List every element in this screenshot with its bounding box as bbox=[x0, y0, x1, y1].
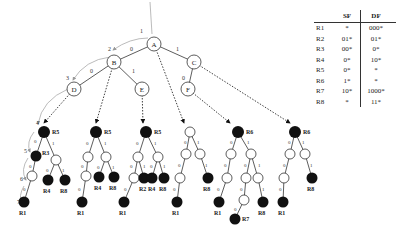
svg-text:1: 1 bbox=[262, 187, 265, 192]
svg-text:A: A bbox=[151, 41, 156, 49]
svg-text:0: 0 bbox=[34, 139, 37, 144]
svg-text:0: 0 bbox=[130, 164, 133, 169]
table-row: R8*11* bbox=[314, 97, 396, 108]
edge-label: 1 bbox=[132, 68, 135, 74]
table-row: R201*01* bbox=[314, 34, 396, 45]
svg-text:R5: R5 bbox=[52, 129, 59, 135]
sf-header: SF bbox=[334, 10, 361, 22]
svg-text:R8: R8 bbox=[60, 188, 67, 194]
svg-text:1: 1 bbox=[310, 163, 313, 168]
table-row: R40*10* bbox=[314, 55, 396, 66]
svg-text:0: 0 bbox=[234, 207, 237, 212]
svg-text:0: 0 bbox=[23, 187, 26, 192]
rule-table: SF DF R1*000* R201*01* R300*0* R40*10* R… bbox=[314, 10, 396, 107]
svg-text:R4: R4 bbox=[148, 186, 155, 192]
svg-text:F: F bbox=[186, 86, 190, 94]
svg-text:0: 0 bbox=[279, 187, 282, 192]
svg-text:1: 1 bbox=[112, 165, 115, 170]
svg-text:0: 0 bbox=[81, 164, 84, 169]
svg-text:R8: R8 bbox=[159, 186, 166, 192]
svg-text:1: 1 bbox=[247, 140, 250, 145]
table-row: R50** bbox=[314, 65, 396, 76]
svg-text:1: 1 bbox=[62, 168, 65, 173]
df-header: DF bbox=[361, 12, 391, 20]
svg-text:R1: R1 bbox=[119, 210, 126, 216]
step-label-4: 4 bbox=[36, 120, 39, 126]
svg-text:1: 1 bbox=[197, 140, 200, 145]
svg-text:R1: R1 bbox=[278, 210, 285, 216]
svg-text:R4: R4 bbox=[43, 188, 50, 194]
svg-text:0: 0 bbox=[97, 165, 100, 170]
svg-text:E: E bbox=[140, 86, 144, 94]
svg-text:1: 1 bbox=[302, 140, 305, 145]
svg-text:0: 0 bbox=[184, 140, 187, 145]
svg-text:0: 0 bbox=[136, 141, 139, 146]
svg-text:R8: R8 bbox=[203, 186, 210, 192]
table-row: R1*000* bbox=[314, 23, 396, 34]
svg-text:1: 1 bbox=[104, 141, 107, 146]
edge-label: 0 bbox=[130, 46, 133, 52]
step-label-5: 5 bbox=[24, 148, 27, 154]
svg-text:0: 0 bbox=[288, 140, 291, 145]
svg-text:0: 0 bbox=[240, 187, 243, 192]
step-label-2: 2 bbox=[108, 46, 111, 52]
svg-text:0: 0 bbox=[244, 163, 247, 168]
svg-text:0: 0 bbox=[29, 164, 32, 169]
svg-text:R1: R1 bbox=[172, 210, 179, 216]
svg-text:1: 1 bbox=[52, 141, 55, 146]
svg-text:0: 0 bbox=[78, 187, 81, 192]
edge-label: 0 bbox=[90, 68, 93, 74]
svg-text:D: D bbox=[71, 86, 76, 94]
rule-node-r5 bbox=[38, 126, 50, 138]
svg-text:R8: R8 bbox=[109, 185, 116, 191]
svg-text:B: B bbox=[112, 59, 117, 67]
svg-text:C: C bbox=[192, 59, 197, 67]
svg-text:1: 1 bbox=[154, 141, 157, 146]
svg-text:R8: R8 bbox=[258, 210, 265, 216]
svg-text:0: 0 bbox=[173, 187, 176, 192]
svg-text:R3: R3 bbox=[42, 150, 49, 156]
svg-text:R2: R2 bbox=[139, 186, 146, 192]
edge-label: 1 bbox=[176, 46, 179, 52]
svg-text:0: 0 bbox=[224, 163, 227, 168]
svg-text:0: 0 bbox=[150, 164, 153, 169]
svg-text:R6: R6 bbox=[303, 129, 310, 135]
svg-text:0: 0 bbox=[178, 163, 181, 168]
step-label-6: 6 bbox=[20, 176, 23, 182]
svg-text:0: 0 bbox=[217, 187, 220, 192]
svg-text:R6: R6 bbox=[246, 129, 253, 135]
rule-node-r3 bbox=[31, 151, 42, 162]
svg-text:R1: R1 bbox=[214, 210, 221, 216]
svg-text:1: 1 bbox=[258, 163, 261, 168]
svg-text:R1: R1 bbox=[77, 210, 84, 216]
table-row: R300*0* bbox=[314, 44, 396, 55]
step-label-3: 3 bbox=[66, 75, 69, 81]
svg-text:R7: R7 bbox=[242, 216, 249, 222]
step-label-1: 1 bbox=[140, 28, 143, 34]
svg-text:1: 1 bbox=[205, 163, 208, 168]
svg-text:1: 1 bbox=[163, 164, 166, 169]
table-row: R710*1000* bbox=[314, 86, 396, 97]
svg-text:R4: R4 bbox=[94, 185, 101, 191]
table-header: SF DF bbox=[314, 10, 396, 23]
table-row: R61** bbox=[314, 76, 396, 87]
svg-text:0: 0 bbox=[283, 163, 286, 168]
svg-text:R8: R8 bbox=[307, 186, 314, 192]
svg-text:0: 0 bbox=[86, 141, 89, 146]
svg-text:0: 0 bbox=[230, 140, 233, 145]
svg-text:R5: R5 bbox=[154, 129, 161, 135]
entry-line bbox=[150, 2, 152, 34]
svg-text:0: 0 bbox=[46, 168, 49, 173]
svg-text:0: 0 bbox=[124, 187, 127, 192]
edge-label: 0 bbox=[182, 75, 185, 81]
svg-text:R1: R1 bbox=[19, 210, 26, 216]
svg-text:1: 1 bbox=[143, 164, 146, 169]
svg-text:R5: R5 bbox=[104, 129, 111, 135]
